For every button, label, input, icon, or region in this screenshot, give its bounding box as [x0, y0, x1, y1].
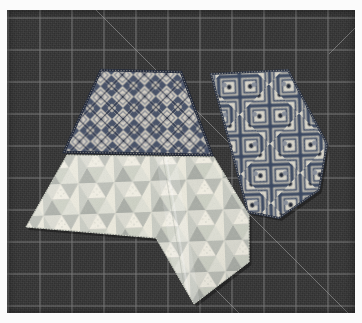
fabric-piece-pastel-triangles	[0, 0, 362, 323]
photo-canvas	[0, 0, 362, 323]
